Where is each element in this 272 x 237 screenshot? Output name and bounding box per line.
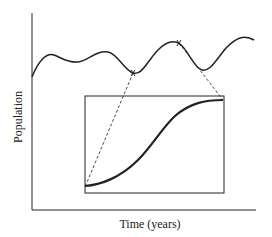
population-diagram bbox=[0, 0, 272, 237]
population-curve bbox=[32, 37, 254, 77]
y-axis-label: Population bbox=[11, 77, 25, 157]
inset-box bbox=[85, 96, 224, 193]
connector-line-right bbox=[179, 43, 223, 100]
logistic-growth-curve bbox=[85, 100, 223, 186]
x-axis-label: Time (years) bbox=[100, 217, 200, 232]
